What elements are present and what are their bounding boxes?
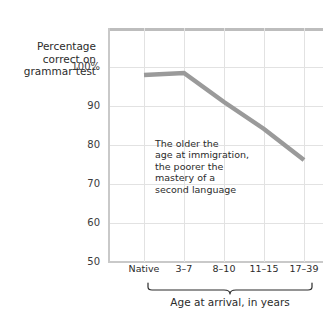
y-tick-label-60: 60: [56, 218, 100, 228]
trend-annotation-line-1: The older the: [155, 138, 255, 149]
y-tick-label-90: 90: [56, 101, 100, 111]
trend-annotation-line-3: the poorer the: [155, 161, 255, 172]
y-tick-label-50: 50: [56, 257, 100, 267]
y-tick-label-70: 70: [56, 179, 100, 189]
trend-annotation-line-4: mastery of a: [155, 172, 255, 183]
x-axis-brace-icon: [146, 282, 314, 295]
trend-annotation-line-5: second language: [155, 184, 255, 195]
trend-annotation: The older the age at immigration, the po…: [155, 138, 255, 195]
y-tick-label-100: 100%: [56, 62, 100, 72]
x-tick-label-17-39: 17–39: [276, 264, 323, 274]
y-tick-label-80: 80: [56, 140, 100, 150]
trend-annotation-line-2: age at immigration,: [155, 149, 255, 160]
x-axis-caption: Age at arrival, in years: [130, 296, 323, 308]
chart-figure: Percentage correct on grammar test 100% …: [0, 0, 323, 319]
